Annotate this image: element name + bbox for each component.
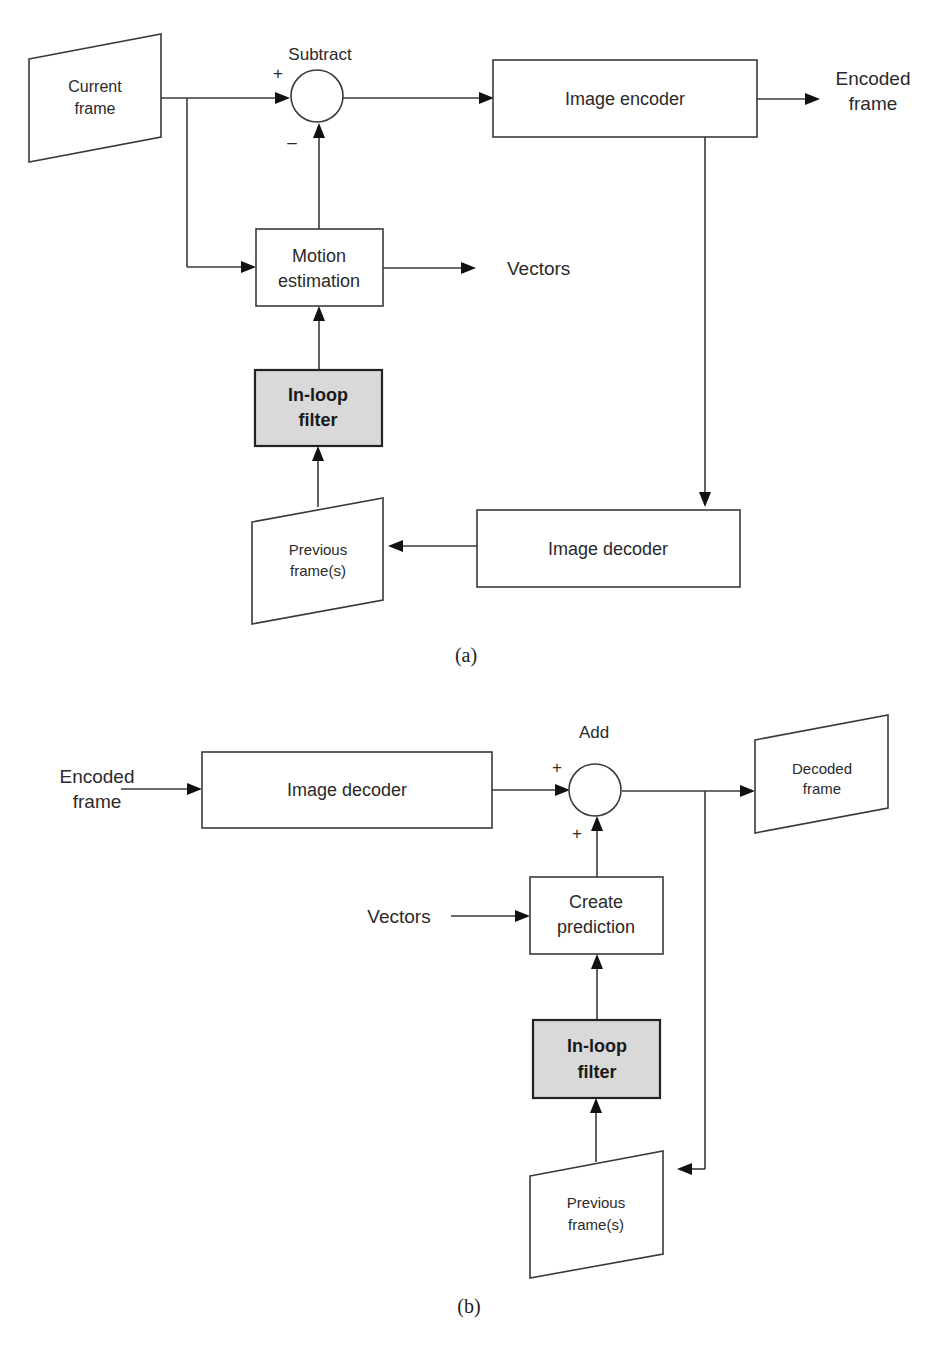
create-prediction-label-2: prediction [557,917,635,937]
vectors-input-label: Vectors [367,906,430,927]
minus-sign: – [287,133,297,152]
plus-sign: + [273,64,283,83]
subtract-label: Subtract [288,45,352,64]
arrow-head-icon [388,540,403,552]
encoded-frame-label-2: frame [849,93,898,114]
encoded-frame-label-1: Encoded [835,68,910,89]
arrow-head-icon [241,261,256,273]
create-prediction-label-1: Create [569,892,623,912]
previous-frames-label-b-1: Previous [567,1194,625,1211]
image-encoder-label: Image encoder [565,89,685,109]
arrow-head-icon [677,1163,692,1175]
caption-b: (b) [457,1295,480,1318]
arrow-head-icon [515,910,530,922]
inloop-filter-node [255,370,382,446]
arrow-head-icon [187,783,202,795]
vectors-output-label: Vectors [507,258,570,279]
previous-frames-node [252,498,383,624]
add-label: Add [579,723,609,742]
diagram-b-decoder: Encoded frame Image decoder Add + + Deco… [59,715,888,1318]
inloop-filter-label-b-2: filter [577,1062,616,1082]
subtract-junction [291,70,343,122]
current-frame-label-2: frame [75,100,116,117]
plus-sign-top: + [552,758,562,777]
arrow-head-icon [805,93,820,105]
arrow-head-icon [591,816,603,831]
arrow-head-icon [313,123,325,138]
current-frame-label-1: Current [68,78,122,95]
caption-a: (a) [455,644,477,667]
decoded-frame-label-1: Decoded [792,760,852,777]
image-decoder-label-b: Image decoder [287,780,407,800]
previous-frames-label-1: Previous [289,541,347,558]
previous-frames-label-b-2: frame(s) [568,1216,624,1233]
add-junction [569,764,621,816]
previous-frames-node-b [530,1151,663,1278]
inloop-filter-label-b-1: In-loop [567,1036,627,1056]
arrow-head-icon [555,784,570,796]
arrow-head-icon [312,446,324,461]
encoded-frame-input-label-2: frame [73,791,122,812]
motion-estimation-node [256,229,383,306]
create-prediction-node [530,877,663,954]
arrow-head-icon [740,785,755,797]
current-frame-node [29,34,161,162]
arrow-head-icon [479,92,494,104]
arrow-head-icon [699,492,711,507]
previous-frames-label-2: frame(s) [290,562,346,579]
video-codec-diagram: Current frame Subtract + – Image encoder… [0,0,936,1345]
inloop-filter-label-1: In-loop [288,385,348,405]
decoded-frame-label-2: frame [803,780,841,797]
motion-estimation-label-2: estimation [278,271,360,291]
diagram-a-encoder: Current frame Subtract + – Image encoder… [29,34,911,667]
arrow-head-icon [590,1098,602,1113]
arrow-head-icon [313,306,325,321]
arrow-head-icon [275,92,290,104]
inloop-filter-label-2: filter [298,410,337,430]
arrow-head-icon [591,954,603,969]
motion-estimation-label-1: Motion [292,246,346,266]
image-decoder-label: Image decoder [548,539,668,559]
inloop-filter-node-b [533,1020,660,1098]
arrow-head-icon [461,262,476,274]
encoded-frame-input-label-1: Encoded [59,766,134,787]
plus-sign-bottom: + [572,824,582,843]
